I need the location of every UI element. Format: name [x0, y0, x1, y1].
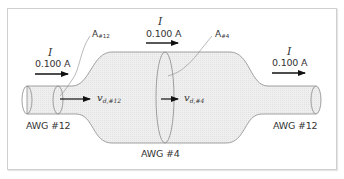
velocity-sub: d,#4 — [190, 97, 205, 104]
wire-label-middle: AWG #4 — [141, 149, 180, 159]
current-value-left: 0.100 A — [35, 59, 70, 69]
current-symbol-left: I — [48, 47, 52, 58]
area-sub: #4 — [221, 33, 229, 39]
velocity-sub: d,#12 — [103, 97, 121, 104]
current-value-right: 0.100 A — [272, 58, 307, 68]
current-symbol-middle: I — [158, 16, 162, 27]
diagram-stage: I 0.100 A I 0.100 A I 0.100 A A#12 A#4 v… — [0, 0, 344, 179]
wire-label-right: AWG #12 — [273, 121, 317, 131]
current-value-middle: 0.100 A — [146, 29, 181, 39]
drift-velocity-label-awg4: vd,#4 — [184, 93, 204, 104]
current-symbol-right: I — [287, 46, 291, 57]
area-label-awg12: A#12 — [92, 30, 110, 40]
right-end-ellipse — [311, 86, 321, 114]
area-label-awg4: A#4 — [215, 30, 229, 40]
drift-velocity-label-awg12: vd,#12 — [97, 93, 121, 104]
wire-label-left: AWG #12 — [26, 121, 70, 131]
area-sub: #12 — [98, 33, 110, 39]
